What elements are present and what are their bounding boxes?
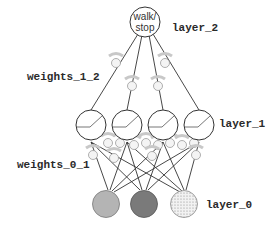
input-node-dotted	[171, 191, 198, 218]
label-weights-0-1: weights_0_1	[17, 159, 90, 171]
hidden-node	[148, 110, 178, 140]
label-layer-0: layer_0	[206, 199, 252, 211]
hidden-node	[184, 110, 214, 140]
output-node-label: walk/ stop	[130, 11, 160, 33]
hidden-node	[76, 110, 106, 140]
edges-weights-1-2	[91, 34, 199, 110]
output-label-line2: stop	[130, 22, 160, 33]
layer-0-nodes	[93, 191, 198, 218]
network-graphic	[0, 0, 280, 231]
output-label-line1: walk/	[130, 11, 160, 22]
label-weights-1-2: weights_1_2	[27, 71, 100, 83]
neural-network-diagram: walk/ stop layer_2 weights_1_2 layer_1 w…	[0, 0, 280, 231]
hidden-node	[112, 110, 142, 140]
weight-knobs-1-2	[109, 54, 172, 91]
input-node-dark	[131, 191, 158, 218]
input-node-light	[93, 191, 120, 218]
layer-1-nodes	[76, 110, 214, 140]
label-layer-1: layer_1	[219, 118, 265, 130]
label-layer-2: layer_2	[172, 22, 218, 34]
